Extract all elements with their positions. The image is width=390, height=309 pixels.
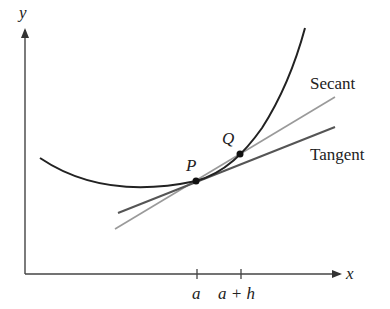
point-p [193, 178, 200, 185]
tick-label-a-plus-h: a + h [218, 284, 255, 303]
secant-label: Secant [310, 74, 356, 93]
diagram-canvas: y x P Q Secant Tangent a a + h [0, 0, 390, 309]
tick-label-a: a [192, 284, 201, 303]
secant-tangent-diagram: y x P Q Secant Tangent a a + h [0, 0, 390, 309]
secant-line [115, 97, 335, 229]
x-axis-label: x [345, 264, 354, 283]
function-curve [40, 28, 305, 187]
y-axis-label: y [17, 3, 27, 22]
tangent-label: Tangent [310, 145, 365, 164]
point-p-label: P [185, 156, 196, 175]
point-q [237, 151, 244, 158]
point-q-label: Q [222, 129, 234, 148]
